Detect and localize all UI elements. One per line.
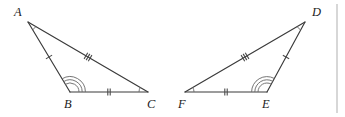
angle-arc bbox=[193, 87, 194, 92]
angle-arc bbox=[297, 27, 300, 30]
angle-e-arcs bbox=[252, 77, 275, 92]
angle-arc bbox=[139, 87, 140, 92]
geometry-canvas: ABCDEF bbox=[0, 0, 345, 117]
vertex-label-b: B bbox=[64, 97, 72, 111]
vertex-label-f: F bbox=[177, 97, 186, 111]
angle-d-arcs bbox=[297, 27, 300, 30]
tick bbox=[46, 55, 52, 59]
angle-a-arcs bbox=[33, 27, 36, 30]
vertex-label-e: E bbox=[261, 97, 270, 111]
vertex-label-c: C bbox=[147, 97, 156, 111]
angle-arc bbox=[33, 27, 36, 30]
angle-f-arcs bbox=[193, 87, 194, 92]
angle-c-arcs bbox=[139, 87, 140, 92]
angle-b-arcs bbox=[62, 77, 85, 92]
side-ac-ticks bbox=[84, 53, 92, 62]
vertex-label-d: D bbox=[311, 5, 321, 19]
side-ab-ticks bbox=[46, 55, 52, 59]
vertex-label-a: A bbox=[13, 5, 22, 19]
triangle-def: DEF bbox=[177, 5, 321, 111]
triangle-abc: ABC bbox=[13, 5, 156, 111]
side-fd-ticks bbox=[241, 53, 249, 62]
geometry-figure: ABCDEF bbox=[0, 0, 345, 117]
